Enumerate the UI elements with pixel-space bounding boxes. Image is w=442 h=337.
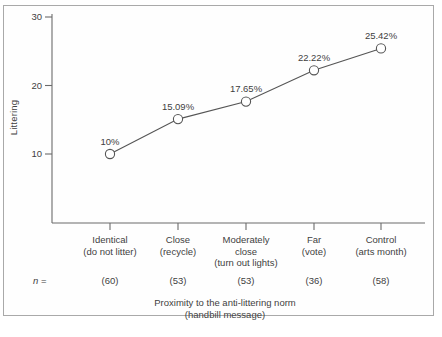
y-axis-title: Littering [8, 88, 19, 148]
x-axis-title-line1: Proximity to the anti-littering norm [60, 297, 390, 309]
data-point-label: 25.42% [351, 30, 411, 41]
data-point-marker [241, 97, 250, 106]
figure-container: Littering 30 20 10 10% 15.09% 17.65% 22.… [0, 0, 442, 337]
data-point-marker [376, 44, 385, 53]
data-point-marker [105, 149, 114, 158]
x-category-line3: (turn out lights) [198, 257, 294, 269]
chart-plot-area [0, 0, 442, 337]
sample-size-value: (60) [80, 275, 140, 286]
data-point-label: 22.22% [284, 52, 344, 63]
x-axis-title: Proximity to the anti-littering norm (ha… [60, 297, 390, 320]
sample-size-value: (53) [148, 275, 208, 286]
x-axis-title-line2: (handbill message) [60, 309, 390, 321]
x-category-line1: Control [333, 234, 429, 246]
data-point-marker [173, 115, 182, 124]
x-category-label-4: Control (arts month) [333, 234, 429, 257]
sample-size-prefix: n = [33, 275, 46, 286]
sample-size-value: (58) [351, 275, 411, 286]
data-point-label: 17.65% [216, 83, 276, 94]
y-tick-label-10: 10 [16, 148, 42, 159]
data-point-label: 10% [80, 136, 140, 147]
y-tick-label-20: 20 [16, 80, 42, 91]
sample-size-value: (36) [284, 275, 344, 286]
y-tick-label-30: 30 [16, 11, 42, 22]
data-point-label: 15.09% [148, 101, 208, 112]
data-point-marker [309, 66, 318, 75]
sample-size-value: (53) [216, 275, 276, 286]
x-category-line2: (arts month) [333, 246, 429, 258]
